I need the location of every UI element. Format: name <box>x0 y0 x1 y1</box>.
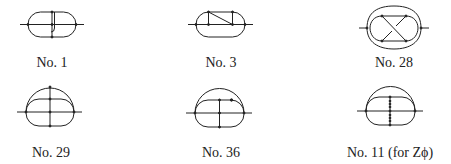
feynman-diagrams <box>0 0 451 164</box>
label-no36: No. 36 <box>202 145 240 161</box>
label-no29: No. 29 <box>32 145 70 161</box>
label-no1: No. 1 <box>36 55 67 71</box>
diagram-no3 <box>188 11 253 37</box>
diagram-no1 <box>20 11 84 38</box>
diagram-no11 <box>357 86 423 126</box>
diagram-no29 <box>17 86 82 127</box>
diagram-no28 <box>359 6 429 49</box>
label-no28: No. 28 <box>375 55 413 71</box>
diagram-no36 <box>186 88 252 128</box>
label-no11: No. 11 (for Zϕ) <box>347 145 433 161</box>
label-no3: No. 3 <box>205 55 236 71</box>
